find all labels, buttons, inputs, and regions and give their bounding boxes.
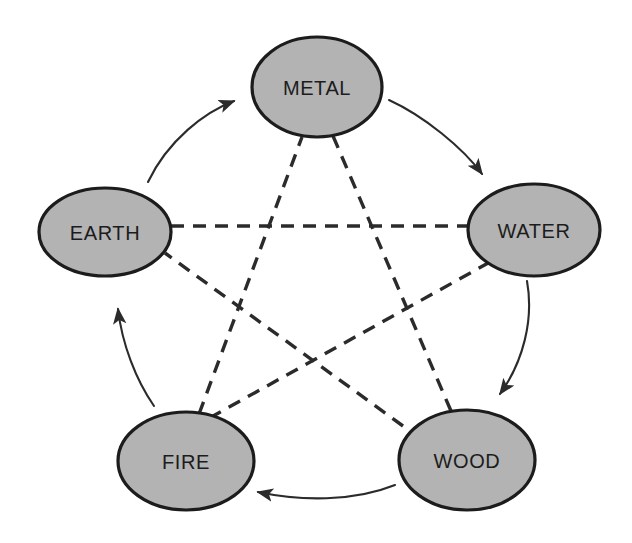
node-label-metal: METAL: [283, 77, 351, 99]
node-wood[interactable]: WOOD: [399, 410, 535, 510]
generating-arrow-metal-water: [389, 100, 482, 174]
node-label-earth: EARTH: [70, 222, 140, 244]
node-metal[interactable]: METAL: [252, 37, 382, 137]
five-elements-canvas: METALWATERWOODFIREEARTH: [0, 0, 632, 543]
node-fire[interactable]: FIRE: [118, 412, 254, 510]
node-label-fire: FIRE: [162, 451, 210, 473]
generating-arrow-fire-earth: [118, 309, 154, 406]
node-water[interactable]: WATER: [468, 184, 600, 276]
overcoming-edge-wood-earth: [165, 253, 403, 426]
generating-arrow-earth-metal: [148, 101, 234, 182]
wuxing-diagram: METALWATERWOODFIREEARTH: [0, 0, 632, 543]
generating-arrow-wood-fire: [258, 485, 395, 498]
overcoming-cycle-lines: [165, 136, 490, 426]
node-label-water: WATER: [498, 220, 571, 242]
overcoming-edge-fire-metal: [199, 137, 302, 414]
overcoming-edge-water-fire: [213, 262, 490, 416]
node-earth[interactable]: EARTH: [39, 188, 171, 276]
generating-arrow-water-wood: [500, 281, 529, 394]
node-label-wood: WOOD: [434, 450, 501, 472]
overcoming-edge-metal-wood: [333, 136, 451, 411]
element-nodes: METALWATERWOODFIREEARTH: [39, 37, 600, 510]
